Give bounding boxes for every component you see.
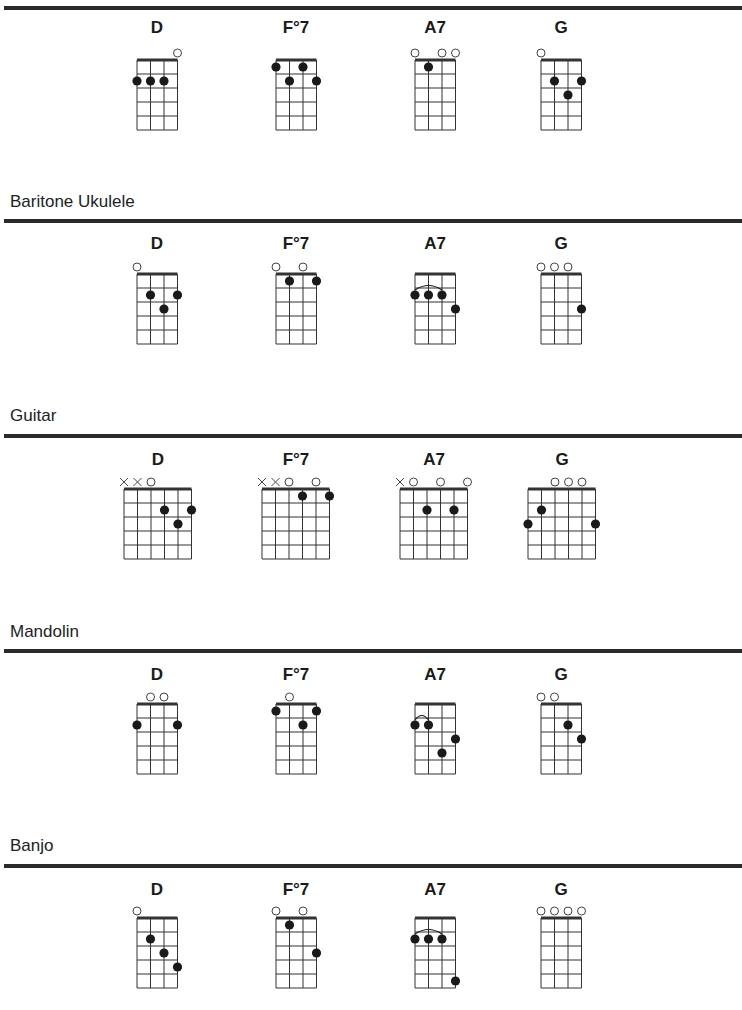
open-string-icon: [451, 49, 459, 57]
chord-name: D: [117, 234, 197, 254]
section-divider: [4, 6, 742, 10]
section-divider: [4, 864, 742, 868]
chord-diagram: [127, 904, 188, 998]
chord-name: A7: [395, 234, 475, 254]
open-string-icon: [577, 907, 585, 915]
finger-dot-icon: [410, 720, 419, 729]
chord-name: G: [522, 450, 602, 470]
chord-name: G: [521, 234, 601, 254]
open-string-icon: [299, 907, 307, 915]
finger-dot-icon: [173, 962, 182, 971]
chord-diagram: [531, 46, 592, 140]
open-string-icon: [437, 478, 445, 486]
open-string-icon: [537, 263, 545, 271]
chord-name: D: [117, 18, 197, 38]
section-divider: [4, 649, 742, 653]
finger-dot-icon: [298, 491, 307, 500]
open-string-icon: [147, 478, 155, 486]
chord-diagram: [405, 690, 466, 784]
finger-dot-icon: [174, 519, 183, 528]
open-string-icon: [578, 478, 586, 486]
finger-dot-icon: [271, 62, 280, 71]
chord-name: G: [521, 880, 601, 900]
finger-dot-icon: [591, 519, 600, 528]
chord-name: G: [521, 18, 601, 38]
open-string-icon: [133, 907, 141, 915]
finger-dot-icon: [451, 304, 460, 313]
section-divider: [4, 219, 742, 223]
chord-diagram: [531, 260, 592, 354]
open-string-icon: [312, 478, 320, 486]
finger-dot-icon: [451, 976, 460, 985]
finger-dot-icon: [424, 720, 433, 729]
finger-dot-icon: [132, 76, 141, 85]
finger-dot-icon: [159, 76, 168, 85]
open-string-icon: [410, 478, 418, 486]
finger-dot-icon: [159, 948, 168, 957]
finger-dot-icon: [437, 290, 446, 299]
finger-dot-icon: [563, 90, 572, 99]
open-string-icon: [160, 693, 168, 701]
chord-name: F°7: [256, 665, 336, 685]
open-string-icon: [272, 907, 280, 915]
finger-dot-icon: [312, 948, 321, 957]
finger-dot-icon: [450, 505, 459, 514]
finger-dot-icon: [173, 720, 182, 729]
finger-dot-icon: [437, 934, 446, 943]
chord-name: F°7: [256, 234, 336, 254]
finger-dot-icon: [423, 505, 432, 514]
open-string-icon: [285, 478, 293, 486]
section-title: Mandolin: [10, 622, 79, 642]
chord-diagram: [266, 46, 327, 140]
open-string-icon: [173, 49, 181, 57]
finger-dot-icon: [285, 276, 294, 285]
open-string-icon: [133, 263, 141, 271]
open-string-icon: [438, 49, 446, 57]
finger-dot-icon: [298, 62, 307, 71]
finger-dot-icon: [312, 76, 321, 85]
section-title: Banjo: [10, 836, 53, 856]
finger-dot-icon: [159, 304, 168, 313]
chord-diagram: [127, 46, 188, 140]
finger-dot-icon: [298, 720, 307, 729]
open-string-icon: [299, 263, 307, 271]
finger-dot-icon: [410, 290, 419, 299]
open-string-icon: [464, 478, 472, 486]
finger-dot-icon: [132, 720, 141, 729]
finger-dot-icon: [312, 706, 321, 715]
chord-diagram: [127, 690, 188, 784]
finger-dot-icon: [285, 76, 294, 85]
finger-dot-icon: [550, 76, 559, 85]
chord-name: D: [118, 450, 198, 470]
finger-dot-icon: [187, 505, 196, 514]
finger-dot-icon: [577, 76, 586, 85]
chord-diagram: [531, 904, 592, 998]
open-string-icon: [564, 263, 572, 271]
chord-diagram: [266, 690, 327, 784]
finger-dot-icon: [437, 748, 446, 757]
chord-diagram: [531, 690, 592, 784]
finger-dot-icon: [271, 706, 280, 715]
chord-name: A7: [395, 880, 475, 900]
finger-dot-icon: [325, 491, 334, 500]
open-string-icon: [564, 907, 572, 915]
chord-diagram: [127, 260, 188, 354]
finger-dot-icon: [285, 920, 294, 929]
open-string-icon: [551, 478, 559, 486]
finger-dot-icon: [424, 290, 433, 299]
open-string-icon: [550, 263, 558, 271]
finger-dot-icon: [173, 290, 182, 299]
chord-name: F°7: [256, 18, 336, 38]
finger-dot-icon: [410, 934, 419, 943]
chord-diagram: [114, 475, 202, 569]
finger-dot-icon: [424, 62, 433, 71]
open-string-icon: [565, 478, 573, 486]
chord-name: D: [117, 665, 197, 685]
open-string-icon: [537, 693, 545, 701]
section-divider: [4, 434, 742, 438]
chord-diagram: [405, 904, 466, 998]
finger-dot-icon: [577, 304, 586, 313]
chord-name: F°7: [256, 880, 336, 900]
section-title: Guitar: [10, 406, 56, 426]
chord-name: G: [521, 665, 601, 685]
